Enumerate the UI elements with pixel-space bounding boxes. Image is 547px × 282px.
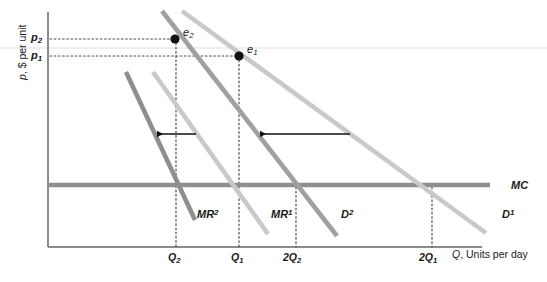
y-axis-title: p, $ per unit [17,25,28,80]
curve-label-mr2: MR2 [197,209,219,220]
economics-chart-figure: p, $ per unit Q, Units per day p2 p1 Q2 … [0,0,547,282]
price-tick-label-p2: p2 [31,32,42,45]
qty-tick-label-Q2: Q2 [168,252,180,264]
equilibrium-point-e1 [234,51,243,60]
curve-mr2 [126,72,195,220]
curve-label-mr1: MR1 [271,209,293,220]
curve-label-d1: D1 [502,209,514,220]
x-axis-title: Q, Units per day [452,249,528,260]
qty-tick-label-Q1: Q1 [231,252,243,264]
curve-d1 [182,11,486,233]
price-tick-label-p1: p1 [31,50,42,63]
qty-tick-label-2Q1: 2Q1 [419,252,437,264]
curve-label-d2: D2 [341,209,353,220]
equilibrium-point-e2 [170,34,179,43]
equilibrium-label-e1: e1 [247,44,258,57]
chart-plot-area [0,0,547,282]
equilibrium-label-e2: e2 [183,27,194,40]
qty-tick-label-2Q2: 2Q2 [283,252,301,264]
curve-label-mc: MC [511,180,528,191]
